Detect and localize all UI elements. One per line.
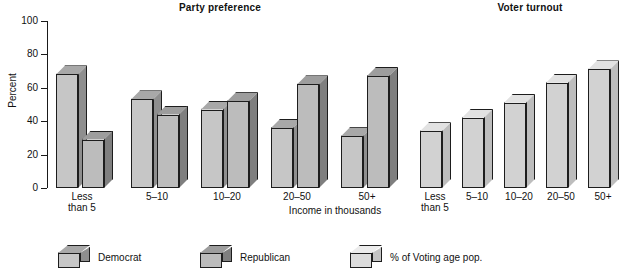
legend-swatch-democrat [58, 245, 92, 269]
x-label-party-4: 50+ [339, 191, 395, 202]
bar-side-face [526, 94, 535, 188]
x-label-party-2: 10–20 [199, 191, 255, 202]
bar-side-face [442, 122, 451, 188]
chart-figure: Party preference Voter turnout Percent 1… [0, 0, 633, 277]
bar-turnout-4 [588, 60, 619, 188]
bar-side-face [568, 74, 577, 188]
bar-turnout-3 [546, 74, 577, 188]
x-label-party-0: Less than 5 [54, 191, 110, 213]
bar-turnout-1 [462, 109, 493, 188]
legend-label-voting-age-pop: % of Voting age pop. [390, 252, 482, 263]
bar-side-face [484, 109, 493, 188]
bar-front-face [546, 83, 568, 188]
x-label-turnout-4: 50+ [575, 191, 631, 202]
bar-turnout-0 [420, 122, 451, 188]
legend-label-republican: Republican [240, 252, 290, 263]
bar-front-face [420, 131, 442, 188]
x-label-party-3: 20–50 [269, 191, 325, 202]
legend-swatch-republican [200, 245, 234, 269]
bar-turnout-2 [504, 94, 535, 188]
bar-side-face [610, 60, 619, 188]
legend-swatch-voting-age-pop [350, 245, 384, 269]
bar-front-face [462, 118, 484, 188]
plot-area-voter-turnout [0, 0, 633, 200]
legend-label-democrat: Democrat [98, 252, 141, 263]
bar-front-face [504, 103, 526, 188]
x-label-party-1: 5–10 [129, 191, 185, 202]
chart-legend: Democrat Republican % of Voting age pop. [0, 240, 633, 277]
x-axis-title: Income in thousands [250, 205, 420, 216]
bar-front-face [588, 69, 610, 188]
